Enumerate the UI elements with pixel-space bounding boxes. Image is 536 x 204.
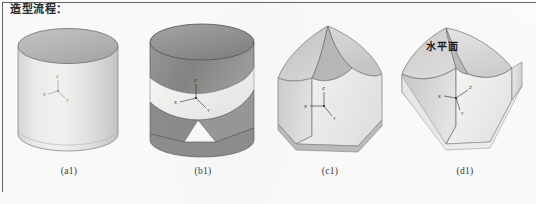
axis-label-x: X — [304, 104, 307, 109]
cylinder-illustration: Z X Y — [2, 16, 136, 162]
axis-label-z: Z — [469, 85, 472, 90]
cylinder-top-face — [18, 29, 118, 64]
panel-a1-caption: (a1) — [2, 166, 136, 176]
page-top-rule — [2, 2, 536, 3]
panel-d1-stage: Z X Y 水平面 — [394, 16, 536, 162]
axis-label-z: Z — [56, 74, 59, 79]
horizontal-plane-annotation: 水平面 — [426, 38, 459, 53]
faceted-solid-illustration: Z X Y — [266, 16, 394, 162]
figure-panel-c1: Z X Y (c1) — [266, 16, 394, 184]
axis-label-z: Z — [194, 78, 197, 83]
axis-label-x: X — [438, 94, 441, 99]
saddle-cut-cylinder-illustration: Z X Y — [136, 16, 270, 162]
front-facet — [446, 68, 512, 144]
left-facet — [402, 68, 456, 144]
figure-panel-b1: Z X Y (b1) — [136, 16, 270, 184]
figure-panel-d1: Z X Y 水平面 (d1) — [394, 16, 536, 184]
axis-label-y: Y — [206, 108, 210, 113]
panel-a1-stage: Z X Y — [2, 16, 136, 162]
axis-label-x: X — [43, 92, 46, 97]
axis-label-x: X — [174, 100, 177, 105]
cylinder-top-face — [150, 24, 254, 60]
panel-c1-stage: Z X Y — [266, 16, 394, 162]
axis-label-y: Y — [65, 98, 69, 103]
figure-panel-a1: Z X Y (a1) — [2, 16, 136, 184]
panel-b1-caption: (b1) — [136, 166, 270, 176]
axis-label-z: Z — [322, 86, 325, 91]
figure-page: 造型流程： — [0, 0, 536, 204]
page-title: 造型流程： — [10, 3, 68, 17]
panel-d1-caption: (d1) — [394, 166, 536, 176]
axis-label-y: Y — [332, 116, 336, 121]
axis-label-y: Y — [460, 111, 464, 116]
panel-c1-caption: (c1) — [266, 166, 394, 176]
panel-b1-stage: Z X Y — [136, 16, 270, 162]
diamond-solid-illustration: Z X Y — [394, 16, 536, 162]
